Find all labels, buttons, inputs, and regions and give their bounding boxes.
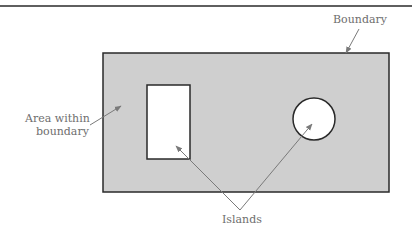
area-label-line1: Area within: [25, 112, 90, 125]
island-circle: [293, 98, 335, 140]
boundary-arrow: [346, 29, 359, 53]
boundary-label: Boundary: [333, 13, 387, 26]
area-label-line2: boundary: [36, 125, 89, 138]
island-rect: [147, 85, 190, 159]
boundary-rect: [103, 53, 389, 192]
islands-label: Islands: [222, 213, 262, 226]
